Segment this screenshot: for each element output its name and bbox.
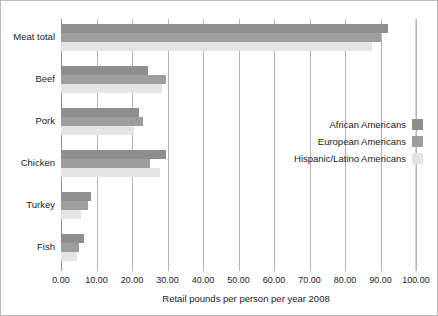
- bar: [61, 201, 88, 210]
- chart-legend: African Americans European Americans His…: [297, 116, 423, 167]
- bar: [61, 168, 160, 177]
- x-tick-label: 80.00: [334, 275, 357, 285]
- bar: [61, 108, 139, 117]
- x-axis-title-text: Retail pounds per person per year 2008: [162, 293, 329, 304]
- category-label: Beef: [35, 74, 55, 84]
- legend-item-african-americans: African Americans: [297, 116, 423, 133]
- bar: [61, 117, 143, 126]
- x-tick-label: 10.00: [85, 275, 108, 285]
- chart-container: Meat totalBeefPorkChickenTurkeyFish 0.00…: [0, 0, 438, 316]
- bar: [61, 33, 381, 42]
- legend-swatch-icon: [412, 119, 423, 130]
- x-tick-label: 40.00: [192, 275, 215, 285]
- x-tick-label: 60.00: [263, 275, 286, 285]
- legend-label: Hispanic/Latino Americans: [294, 153, 406, 164]
- x-tick-label: 50.00: [227, 275, 250, 285]
- x-tick-label: 90.00: [369, 275, 392, 285]
- bar: [61, 126, 134, 135]
- legend-label: African Americans: [329, 119, 406, 130]
- bar-group: Meat total: [61, 24, 416, 51]
- bar-group: Beef: [61, 66, 416, 93]
- legend-item-european-americans: European Americans: [297, 133, 423, 150]
- legend-swatch-icon: [412, 153, 423, 164]
- x-axis-title: Retail pounds per person per year 2008: [1, 293, 438, 304]
- bar-group: Fish: [61, 234, 416, 261]
- x-tick-label: 100.00: [402, 275, 430, 285]
- bar: [61, 210, 81, 219]
- bar: [61, 66, 148, 75]
- category-label: Pork: [35, 116, 55, 126]
- bar: [61, 192, 91, 201]
- category-label: Chicken: [21, 158, 55, 168]
- bar: [61, 84, 162, 93]
- x-tick-label: 0.00: [52, 275, 70, 285]
- legend-swatch-icon: [412, 136, 423, 147]
- bar-group: Turkey: [61, 192, 416, 219]
- category-label: Meat total: [13, 32, 55, 42]
- bar: [61, 159, 150, 168]
- category-label: Turkey: [26, 200, 55, 210]
- bar: [61, 24, 388, 33]
- bar: [61, 150, 166, 159]
- x-tick-label: 30.00: [156, 275, 179, 285]
- bar: [61, 75, 166, 84]
- legend-item-hispanic-latino-americans: Hispanic/Latino Americans: [297, 150, 423, 167]
- bar: [61, 234, 84, 243]
- x-tick-label: 20.00: [121, 275, 144, 285]
- legend-label: European Americans: [318, 136, 406, 147]
- category-label: Fish: [37, 242, 55, 252]
- bar: [61, 243, 79, 252]
- x-tick-label: 70.00: [298, 275, 321, 285]
- bar: [61, 252, 77, 261]
- bar: [61, 42, 372, 51]
